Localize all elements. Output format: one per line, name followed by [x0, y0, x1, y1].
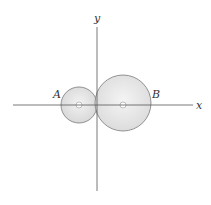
- disk-a-label: A: [52, 88, 61, 101]
- diagram-canvas: y x A B: [0, 0, 211, 205]
- disk-b: [95, 75, 151, 131]
- disk-b-label: B: [151, 88, 160, 101]
- y-axis-label: y: [93, 12, 101, 25]
- x-axis-label: x: [196, 99, 203, 112]
